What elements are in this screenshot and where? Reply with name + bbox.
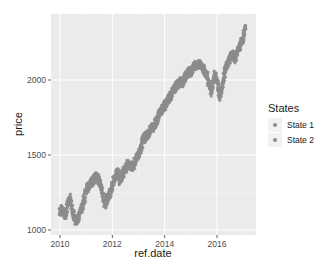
- data-point: [170, 98, 173, 101]
- data-point: [84, 196, 87, 199]
- y-tick-label: 1500: [27, 150, 46, 160]
- data-point: [70, 205, 73, 208]
- data-point: [244, 24, 247, 27]
- legend: States State 1 State 2: [268, 102, 314, 147]
- data-point: [210, 94, 213, 97]
- data-point: [73, 210, 76, 213]
- x-tick-label: 2016: [208, 239, 227, 249]
- data-point: [236, 54, 239, 57]
- data-point: [222, 86, 225, 89]
- legend-key-dot-icon: [273, 138, 277, 142]
- data-point: [220, 92, 223, 95]
- data-point: [69, 193, 72, 196]
- price-chart: 2010201220142016 100015002000 ref.date p…: [0, 0, 328, 272]
- legend-label: State 2: [287, 135, 314, 145]
- data-point: [242, 36, 245, 39]
- legend-item-state-1: State 1: [268, 118, 314, 132]
- y-axis-title: price: [12, 112, 24, 136]
- data-point: [118, 183, 121, 186]
- data-point: [141, 146, 144, 149]
- data-point: [243, 29, 246, 32]
- y-axis: 100015002000: [27, 75, 51, 235]
- data-point: [171, 95, 174, 98]
- legend-label: State 1: [287, 120, 314, 130]
- data-point: [224, 76, 227, 79]
- y-tick-label: 2000: [27, 75, 46, 85]
- x-tick-label: 2010: [51, 239, 70, 249]
- data-point: [69, 198, 72, 201]
- data-point: [111, 184, 114, 187]
- data-point: [101, 186, 104, 189]
- data-point: [110, 195, 113, 198]
- x-axis-title: ref.date: [134, 247, 171, 259]
- data-point: [205, 72, 208, 75]
- legend-item-state-2: State 2: [268, 133, 314, 147]
- data-point: [101, 192, 104, 195]
- y-tick-label: 1000: [27, 225, 46, 235]
- data-point: [105, 201, 108, 204]
- data-point: [219, 95, 222, 98]
- data-point: [65, 207, 68, 210]
- legend-title: States: [268, 102, 300, 114]
- x-tick-label: 2012: [103, 239, 122, 249]
- data-point: [210, 87, 213, 90]
- data-point: [217, 82, 220, 85]
- legend-key-dot-icon: [273, 123, 277, 127]
- data-point: [65, 210, 68, 213]
